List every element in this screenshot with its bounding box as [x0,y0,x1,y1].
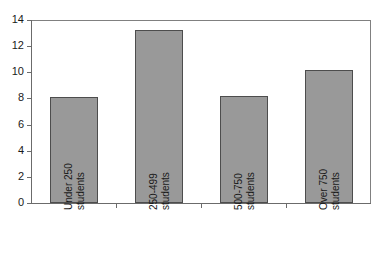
x-category-label-line: Under 250 [63,163,74,210]
x-category-label-line: students [245,172,256,210]
bar-chart: 02468101214 Under 250students250-499stud… [0,0,386,265]
x-category-label-line: students [75,172,86,210]
x-category-label-line: 500-750 [233,173,244,210]
x-category-label-line: Over 750 [318,169,329,210]
x-category-label-line: 250-499 [148,173,159,210]
bars-group [0,0,386,265]
x-category-label-line: students [330,172,341,210]
x-category-label-line: students [160,172,171,210]
